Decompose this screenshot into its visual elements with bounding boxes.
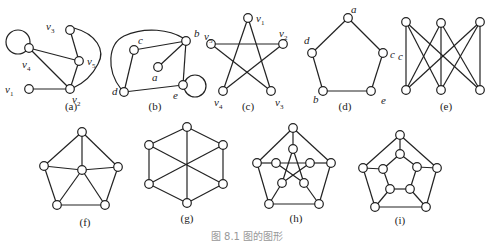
edge	[293, 128, 331, 163]
graph-label: (g)	[181, 212, 194, 225]
graph-f: (f)	[40, 128, 123, 229]
vertex-c	[130, 46, 139, 55]
vertex-i5	[379, 165, 388, 174]
edge	[57, 170, 82, 205]
edge	[426, 168, 437, 207]
vertex-o3	[315, 200, 324, 209]
vertex-l	[40, 162, 49, 171]
graph-label: (e)	[440, 100, 453, 113]
vertex-o1	[289, 124, 298, 133]
vertex-d	[308, 49, 317, 58]
edge	[312, 18, 348, 53]
vertex-label: v4	[214, 96, 223, 111]
vertex-label: v5	[87, 55, 96, 70]
edge	[124, 50, 134, 92]
edge	[371, 53, 383, 91]
vertex-label: b	[313, 93, 319, 105]
edge	[149, 127, 187, 145]
vertex-e	[367, 87, 376, 96]
vertex-label: b	[194, 27, 200, 39]
vertex-i3	[406, 185, 415, 194]
vertex-ll	[145, 180, 154, 189]
graph-h: (h)	[253, 124, 336, 225]
edge	[149, 184, 187, 203]
graph-d: adcbe(d)	[304, 3, 395, 113]
graph-label: (b)	[149, 100, 162, 113]
curved-edge	[111, 30, 183, 89]
vertex-v4	[25, 44, 34, 53]
vertex-top	[78, 128, 87, 137]
vertex-label: c	[390, 48, 395, 60]
vertex-o4	[265, 200, 274, 209]
vertex-v3	[267, 87, 276, 96]
vertex-i2	[306, 159, 315, 168]
graph-label: (i)	[395, 214, 406, 227]
vertex-o5	[253, 159, 262, 168]
vertex-t3	[476, 18, 485, 27]
vertex-o1	[396, 131, 405, 140]
vertex-i1	[396, 150, 405, 159]
edge	[363, 168, 375, 207]
vertex-lr	[219, 180, 228, 189]
vertex-top	[183, 123, 192, 132]
edge	[44, 132, 82, 166]
edge	[223, 44, 283, 91]
vertex-v3	[66, 26, 75, 35]
edge	[223, 18, 248, 91]
graph-a: v3v4v5v1v2(a)	[5, 20, 101, 113]
vertex-i4	[278, 179, 287, 188]
vertex-o3	[422, 203, 431, 212]
vertex-v5	[75, 57, 84, 66]
vertex-v1	[244, 14, 253, 23]
edge	[187, 184, 223, 203]
vertex-o4	[371, 203, 380, 212]
graph-label: (a)	[65, 100, 78, 113]
vertex-o2	[433, 164, 442, 173]
edge	[282, 149, 293, 183]
vertex-label: v3	[46, 20, 55, 35]
graph-label: (h)	[290, 212, 303, 225]
vertex-bl	[53, 201, 62, 210]
vertex-label: c	[138, 34, 143, 46]
edge	[257, 163, 269, 204]
edge	[312, 53, 323, 91]
vertex-label: c	[398, 50, 403, 62]
vertex-label: e	[381, 94, 386, 106]
graph-b: cbade(b)	[111, 27, 206, 113]
vertex-label: e	[173, 89, 178, 101]
edge	[211, 44, 271, 91]
vertex-i1	[289, 145, 298, 154]
vertex-v4	[219, 87, 228, 96]
vertex-ul	[145, 141, 154, 150]
graph-e: c(e)	[398, 18, 484, 113]
vertex-c	[78, 166, 87, 175]
vertex-c	[379, 49, 388, 58]
edge	[348, 18, 383, 53]
vertex-label: v1	[5, 83, 14, 98]
edge	[319, 163, 331, 204]
vertex-ur	[219, 141, 228, 150]
vertex-r	[114, 163, 123, 172]
vertex-b3	[476, 86, 485, 95]
vertex-a	[154, 63, 163, 72]
edge	[187, 127, 223, 145]
edge	[105, 167, 118, 205]
graph-g: (g)	[145, 123, 228, 225]
graphs-layer: v3v4v5v1v2(a)cbade(b)v1v5v2v4v3(c)adcbe(…	[5, 3, 484, 229]
graph-label: (d)	[339, 100, 352, 113]
graph-label: (c)	[242, 100, 255, 113]
edge	[257, 128, 293, 163]
vertex-label: d	[112, 85, 118, 97]
vertex-label: v3	[275, 96, 284, 111]
vertex-o2	[327, 159, 336, 168]
vertex-label: d	[304, 34, 310, 46]
graph-c: v1v5v2v4v3(c)	[204, 12, 288, 113]
vertex-b1	[402, 86, 411, 95]
vertex-bot	[183, 199, 192, 208]
edge	[183, 41, 186, 85]
vertex-i5	[272, 159, 281, 168]
edge	[44, 166, 82, 170]
vertex-label: a	[351, 3, 357, 15]
edge	[293, 149, 304, 183]
edge	[29, 48, 70, 89]
